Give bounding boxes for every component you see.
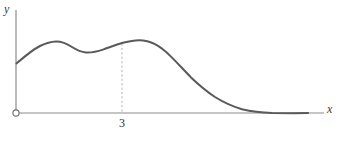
x-axis-label: x xyxy=(327,103,332,115)
function-plot xyxy=(0,0,341,143)
graph-figure: y x 3 xyxy=(0,0,341,143)
y-axis-label: y xyxy=(4,3,9,15)
function-curve xyxy=(17,40,309,113)
x-tick-label-3: 3 xyxy=(112,117,132,129)
origin-marker-icon xyxy=(13,110,19,116)
